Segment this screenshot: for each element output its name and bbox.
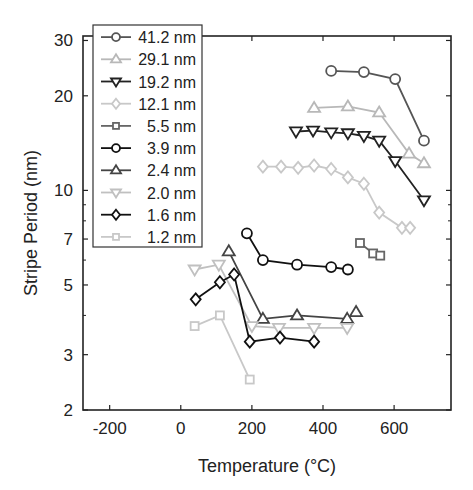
diamond-marker-icon [326,163,336,175]
diamond-marker-icon [293,162,303,174]
triangle-up-marker-icon [223,245,235,255]
x-tick-label: 0 [176,419,185,438]
square-marker-icon [191,322,199,330]
triangle-down-marker-icon [290,127,302,137]
diamond-marker-icon [245,336,255,348]
triangle-up-marker-icon [350,306,362,316]
y-tick-label: 3 [64,346,73,365]
legend-label: 1.2 nm [147,229,196,246]
circle-marker-icon [390,74,400,84]
legend-label: 2.4 nm [147,162,196,179]
legend-label: 3.9 nm [147,140,196,157]
square-marker-icon [356,239,364,247]
y-tick-label: 2 [64,401,73,420]
x-tick-label: -200 [93,419,127,438]
triangle-up-marker-icon [291,309,303,319]
y-tick-label: 5 [64,276,73,295]
legend-label: 19.2 nm [138,74,196,91]
x-axis-title: Temperature (°C) [198,456,336,476]
triangle-down-marker-icon [308,324,320,334]
series-1-2-nm [191,311,254,383]
circle-marker-icon [292,260,302,270]
legend-label: 29.1 nm [138,51,196,68]
legend-label: 1.6 nm [147,207,196,224]
circle-marker-icon [112,144,120,152]
diamond-marker-icon [309,160,319,172]
circle-marker-icon [112,33,120,41]
diamond-marker-icon [191,293,201,305]
triangle-down-marker-icon [418,196,430,206]
circle-marker-icon [359,67,369,77]
circle-marker-icon [242,228,252,238]
square-marker-icon [246,376,254,384]
y-axis-title: Stripe Period (nm) [21,150,41,296]
diamond-marker-icon [374,207,384,219]
diamond-marker-icon [405,222,415,234]
legend-label: 2.0 nm [147,185,196,202]
circle-marker-icon [258,255,268,265]
series-1-6-nm [191,268,319,347]
square-marker-icon [216,311,224,319]
triangle-up-marker-icon [418,157,430,167]
circle-marker-icon [343,265,353,275]
circle-marker-icon [326,262,336,272]
legend-label: 41.2 nm [138,29,196,46]
x-tick-label: 200 [238,419,266,438]
square-marker-icon [376,252,384,260]
legend: 41.2 nm29.1 nm19.2 nm12.1 nm5.5 nm3.9 nm… [93,25,202,247]
diamond-marker-icon [276,161,286,173]
square-marker-icon [113,123,119,129]
series-3-9-nm [242,228,353,274]
diamond-marker-icon [343,171,353,183]
diamond-marker-icon [275,332,285,344]
y-tick-label: 30 [54,31,73,50]
y-tick-label: 10 [54,181,73,200]
data-series [189,66,430,384]
triangle-down-marker-icon [341,324,353,334]
y-tick-label: 7 [64,230,73,249]
x-tick-label: 400 [309,419,337,438]
triangle-up-marker-icon [342,100,354,110]
stripe-period-chart: -2000200400600 2357102030 41.2 nm29.1 nm… [0,0,473,490]
x-tick-label: 600 [380,419,408,438]
diamond-marker-icon [258,161,268,173]
diamond-marker-icon [309,336,319,348]
series-12-1-nm [258,160,415,234]
circle-marker-icon [419,136,429,146]
legend-label: 12.1 nm [138,96,196,113]
series-5-5-nm [356,239,384,260]
diamond-marker-icon [359,178,369,190]
y-tick-label: 20 [54,87,73,106]
legend-label: 5.5 nm [147,118,196,135]
square-marker-icon [113,234,119,240]
triangle-down-marker-icon [189,266,201,276]
diamond-marker-icon [215,276,225,288]
circle-marker-icon [326,66,336,76]
